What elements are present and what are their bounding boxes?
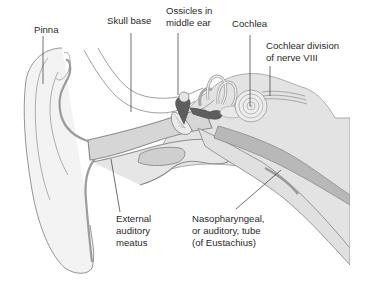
cochlea-spiral xyxy=(235,90,267,122)
label-eustachian-tube: Nasopharyngeal, or auditory, tube (of Eu… xyxy=(192,213,265,249)
skull-base-line-2 xyxy=(98,48,203,98)
label-cochlea: Cochlea xyxy=(232,18,267,30)
ossicle-head xyxy=(179,92,189,102)
label-pinna: Pinna xyxy=(34,24,59,36)
label-cochlear-nerve: Cochlear division of nerve VIII xyxy=(266,40,339,64)
diagram-right-clip xyxy=(350,0,365,292)
pinna-outline xyxy=(24,48,94,273)
label-external-meatus: External auditory meatus xyxy=(116,213,151,249)
label-skull-base: Skull base xyxy=(107,15,151,27)
ear-anatomy-diagram: Pinna Skull base Ossicles in middle ear … xyxy=(0,0,365,292)
label-ossicles: Ossicles in middle ear xyxy=(166,5,212,29)
